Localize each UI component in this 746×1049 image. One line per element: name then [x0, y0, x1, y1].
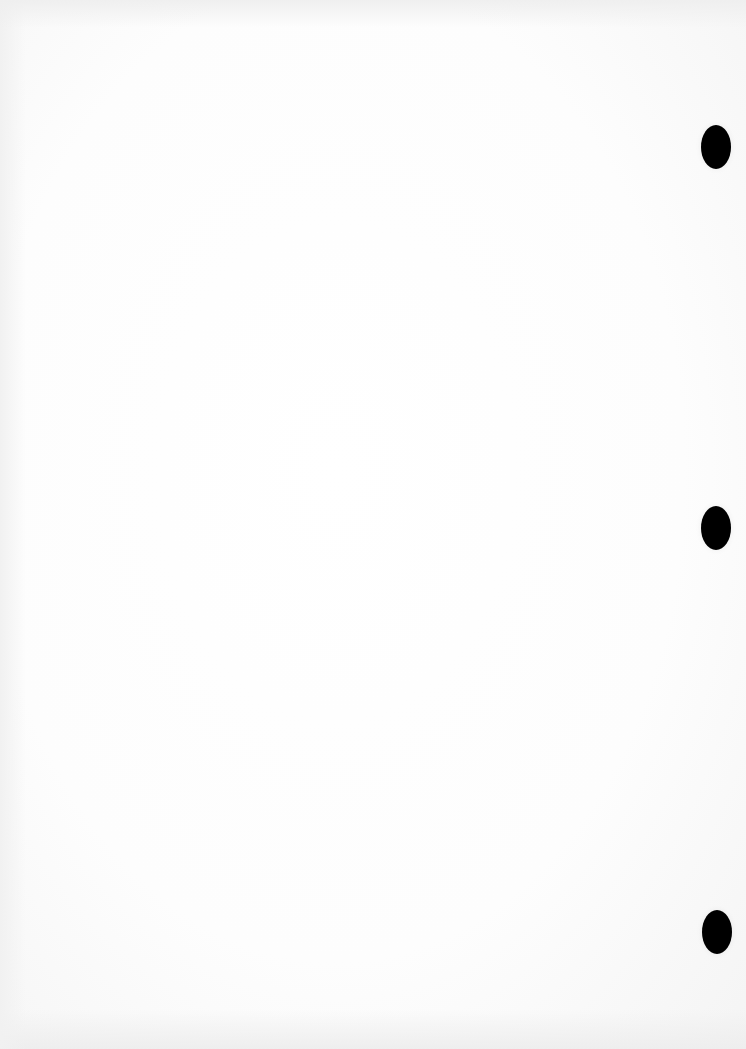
page-content	[0, 0, 746, 1049]
punch-hole-bottom	[702, 910, 732, 954]
punch-hole-top	[701, 125, 731, 169]
punch-hole-middle	[701, 506, 731, 550]
blank-document-page	[0, 0, 746, 1049]
